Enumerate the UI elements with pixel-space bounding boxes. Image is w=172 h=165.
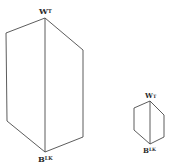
large-prism-outline [6, 18, 83, 152]
large-bottom-label: BLK [38, 154, 53, 164]
small-bottom-label: BLK [143, 146, 157, 155]
small-prism: WT BLK [134, 91, 164, 155]
large-top-label: WT [38, 6, 52, 16]
large-prism: WT BLK [6, 6, 83, 164]
diagram-canvas: WT BLK WT BLK [0, 0, 172, 165]
small-prism-outline [134, 101, 164, 144]
small-top-label: WT [144, 91, 157, 100]
